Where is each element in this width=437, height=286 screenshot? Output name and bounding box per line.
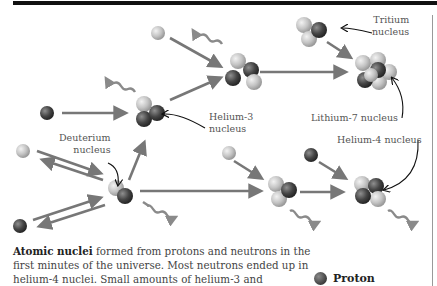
neutron-particle xyxy=(222,146,236,160)
deuterium-label-line2: nucleus xyxy=(59,144,111,156)
lithium-7-label: Lithium-7 nucleus xyxy=(311,112,398,124)
lithium-7-nucleus xyxy=(355,52,397,90)
helium-3-label-line2: nucleus xyxy=(209,123,253,135)
proton-particle xyxy=(13,219,27,233)
deuterium-label: Deuterium nucleus xyxy=(59,132,111,156)
tritium-label-line2: nucleus xyxy=(372,26,409,38)
deuterium-nucleus xyxy=(108,180,133,204)
proton-legend-icon xyxy=(314,272,327,285)
proton-particle xyxy=(40,106,54,120)
helium-3-nucleus xyxy=(136,96,165,127)
proton-particle xyxy=(304,148,318,162)
caption-bold: Atomic nuclei xyxy=(13,245,93,257)
tritium-label: Tritium nucleus xyxy=(372,14,409,38)
neutron-particle xyxy=(16,144,30,158)
helium-4-label: Helium-4 nucleus xyxy=(337,134,422,146)
neutron-particle xyxy=(151,26,165,40)
tritium-nucleus xyxy=(296,17,327,47)
deuterium-label-line1: Deuterium xyxy=(59,132,111,144)
helium-4-nucleus xyxy=(354,176,386,207)
caption: Atomic nuclei formed from protons and ne… xyxy=(13,244,313,286)
tritium-label-line1: Tritium xyxy=(372,14,409,26)
legend: Proton xyxy=(314,272,375,285)
helium-4-cluster xyxy=(225,53,262,90)
helium-3-label: Helium-3 nucleus xyxy=(209,111,253,135)
legend-proton-label: Proton xyxy=(333,272,375,285)
helium-3-label-line1: Helium-3 xyxy=(209,111,253,123)
helium-3-lower xyxy=(268,176,297,207)
